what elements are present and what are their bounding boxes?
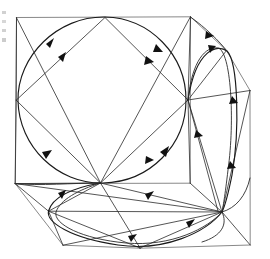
spoke-fan-lower-left [15, 184, 140, 248]
spoke-center-to-lowerleft [49, 183, 101, 211]
spoke-center-to-topleft [17, 18, 101, 183]
spoke-lr-to-botright [222, 212, 250, 245]
bottom-lobe-outer-arc [48, 183, 222, 246]
spoke-center-to-botmid [101, 183, 141, 248]
spoke-lr-to-lowerleft [49, 211, 223, 212]
spoke-fan-center [15, 17, 222, 248]
circle-path [18, 17, 186, 183]
arrowhead-circle-upper-right [153, 44, 163, 52]
arrowhead-spoke-right-down [194, 130, 203, 138]
circumscribed-circle [18, 17, 186, 183]
margin-mark-4 [2, 38, 6, 42]
spoke-lr-to-sqbl [15, 184, 222, 212]
geometric-figure-svg [0, 0, 270, 259]
spoke-right-to-farright [188, 91, 250, 101]
arrowhead-spoke-center-up [145, 156, 154, 164]
arrowhead-circle-lower-left [42, 150, 52, 159]
arrowhead-bottom-lobe-right [186, 219, 195, 228]
figure-root: Hand-drawn geometric flow diagram [0, 0, 270, 259]
spoke-fan-lower-right [15, 91, 250, 249]
spoke-right-to-lowerright [188, 100, 222, 212]
right-lobe-arcs [188, 17, 250, 212]
spoke-fan-right [188, 17, 250, 212]
spoke-lr-to-farright [222, 91, 250, 213]
spoke-right-to-sqbr [188, 100, 190, 183]
outer-square [15, 17, 190, 184]
margin-marks-group [2, 11, 6, 42]
spoke-fan-left [15, 18, 16, 184]
spoke-left-to-botleft [15, 100, 16, 183]
spoke-lr-to-botleft [63, 212, 222, 245]
margin-mark-1 [2, 11, 6, 14]
spoke-center-to-topright [101, 17, 191, 183]
margin-mark-2 [2, 20, 6, 23]
arrowhead-circle-upper-left [46, 38, 54, 48]
margin-mark-3 [2, 29, 6, 32]
